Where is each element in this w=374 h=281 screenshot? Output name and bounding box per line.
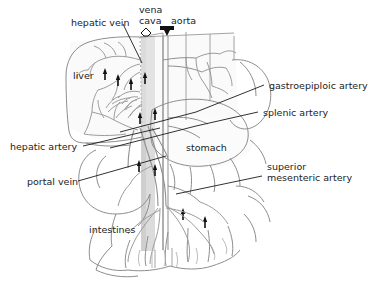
aorta-marker-icon — [160, 26, 174, 36]
label-hepatic-artery: hepatic artery — [10, 141, 77, 152]
label-superior-mesenteric-artery-line1: superior — [267, 161, 306, 172]
label-superior-mesenteric-artery-line2: mesenteric artery — [267, 172, 352, 183]
label-aorta: aorta — [171, 15, 196, 26]
vena-cava-marker-icon — [141, 28, 151, 36]
mesenteric-vessels — [118, 166, 228, 264]
anatomy-diagram-figure: hepatic vein vena cava aorta liver gastr… — [0, 0, 374, 281]
label-hepatic-vein: hepatic vein — [71, 17, 129, 28]
label-splenic-artery: splenic artery — [263, 107, 328, 118]
label-portal-vein: portal vein — [27, 176, 78, 187]
intestines-outline — [79, 150, 270, 277]
label-gastroepiploic-artery: gastroepiploic artery — [269, 80, 368, 91]
label-liver: liver — [73, 70, 94, 81]
leader-superior-mesenteric — [176, 176, 262, 194]
label-stomach: stomach — [186, 142, 227, 153]
label-vena-cava-line1: vena — [139, 4, 162, 15]
label-intestines: intestines — [89, 224, 135, 235]
label-vena-cava-line2: cava — [139, 15, 162, 26]
